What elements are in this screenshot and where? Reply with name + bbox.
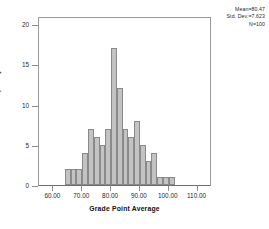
x-tick-mark	[197, 186, 198, 191]
y-tick-label: 10	[7, 102, 29, 109]
y-tick-label: 5	[7, 142, 29, 149]
y-tick-label: 0	[7, 182, 29, 189]
plot-area	[38, 17, 211, 186]
histogram-bar	[169, 177, 175, 185]
stat-std-dev: Std. Dev.=7.623	[227, 13, 265, 20]
x-axis-title: Grade Point Average	[38, 205, 211, 212]
x-tick-mark	[110, 186, 111, 191]
histogram-figure: Mean=80.47 Std. Dev.=7.623 N=100 Frequen…	[0, 0, 269, 229]
statistics-annotation: Mean=80.47 Std. Dev.=7.623 N=100	[227, 6, 265, 28]
y-tick-mark	[32, 186, 38, 187]
y-tick-label: 20	[7, 21, 29, 28]
stat-mean: Mean=80.47	[227, 6, 265, 13]
x-tick-mark	[81, 186, 82, 191]
histogram-bars	[39, 18, 210, 185]
x-tick-mark	[168, 186, 169, 191]
x-tick-mark	[139, 186, 140, 191]
y-tick-label: 15	[7, 61, 29, 68]
x-tick-label: 110.00	[180, 192, 214, 199]
stat-sample-size: N=100	[227, 21, 265, 28]
x-tick-mark	[52, 186, 53, 191]
